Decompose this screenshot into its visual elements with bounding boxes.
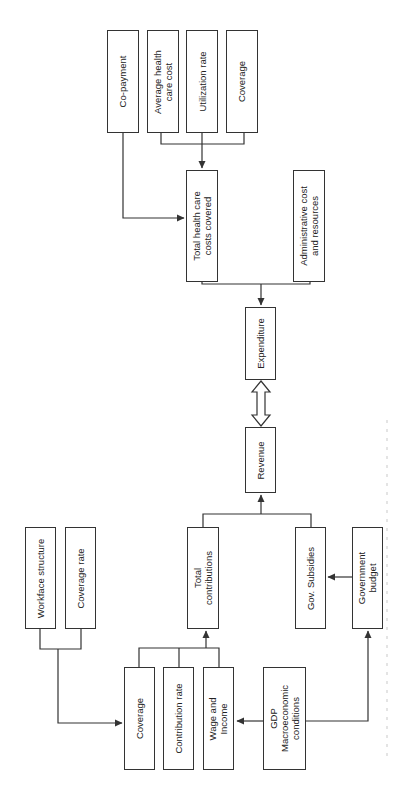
- health-financing-flowchart: Co-payment Average health care cost Util…: [0, 0, 397, 802]
- node-coverage-rate: Coverage rate: [65, 527, 96, 629]
- node-administrative-cost: Administrative cost and resources: [293, 170, 325, 282]
- node-total-health-care-costs: Total health care costs covered: [186, 170, 218, 282]
- node-coverage-top: Coverage: [226, 30, 258, 133]
- node-gdp-macroeconomic: GDP Macroeconomic conditions: [263, 667, 306, 770]
- node-label: Government budget: [357, 552, 379, 604]
- node-label: Wage and Income: [208, 697, 230, 740]
- node-label: Coverage: [237, 61, 248, 102]
- node-wage-and-income: Wage and Income: [203, 667, 234, 770]
- node-label: Utilization rate: [197, 51, 208, 111]
- node-coverage-bottom: Coverage: [124, 667, 155, 770]
- node-government-budget: Government budget: [352, 527, 383, 629]
- node-label: Administrative cost and resources: [298, 186, 320, 266]
- node-label: Revenue: [255, 441, 266, 479]
- node-label: Total contributions: [192, 551, 214, 605]
- node-workface-structure: Workface structure: [25, 527, 56, 629]
- node-label: Expenditure: [255, 318, 266, 369]
- node-average-health-care-cost: Average health care cost: [147, 30, 179, 133]
- page-bleed-through: [386, 420, 388, 760]
- node-label: Coverage rate: [75, 548, 86, 608]
- node-total-contributions: Total contributions: [187, 527, 219, 629]
- bidirectional-arrow-icon: [252, 381, 270, 426]
- node-contribution-rate: Contribution rate: [163, 667, 194, 770]
- node-label: Workface structure: [35, 538, 46, 618]
- node-label: Co-payment: [118, 56, 129, 108]
- node-label: Contribution rate: [173, 683, 184, 753]
- node-gov-subsidies: Gov. Subsidies: [295, 527, 326, 629]
- node-expenditure: Expenditure: [245, 307, 276, 380]
- node-label: GDP Macroeconomic conditions: [268, 685, 301, 752]
- node-label: Gov. Subsidies: [305, 546, 316, 609]
- node-label: Average health care cost: [152, 50, 174, 114]
- node-label: Coverage: [134, 698, 145, 739]
- node-utilization-rate: Utilization rate: [186, 30, 218, 133]
- node-label: Total health care costs covered: [191, 191, 213, 261]
- node-revenue: Revenue: [245, 427, 276, 493]
- node-co-payment: Co-payment: [107, 30, 139, 133]
